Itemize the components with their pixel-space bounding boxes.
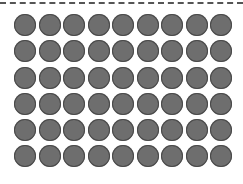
- circle-dot: [161, 14, 183, 36]
- circle-dot: [112, 119, 134, 141]
- circle-dot: [88, 93, 110, 115]
- circle-dot: [186, 145, 208, 167]
- circle-dot: [161, 40, 183, 62]
- circle-dot: [39, 40, 61, 62]
- circle-dot: [39, 119, 61, 141]
- circle-dot: [210, 14, 232, 36]
- circle-dot: [137, 40, 159, 62]
- circle-dot: [137, 145, 159, 167]
- circle-dot: [186, 14, 208, 36]
- circle-dot: [63, 145, 85, 167]
- circle-dot: [161, 119, 183, 141]
- circle-dot: [63, 93, 85, 115]
- circle-dot: [210, 145, 232, 167]
- circle-dot: [39, 67, 61, 89]
- circle-dot: [88, 40, 110, 62]
- circle-dot: [210, 67, 232, 89]
- circle-dot: [63, 67, 85, 89]
- circle-dot: [14, 145, 36, 167]
- circle-dot: [63, 14, 85, 36]
- dot-grid: [14, 14, 232, 167]
- circle-dot: [14, 93, 36, 115]
- circle-dot: [186, 119, 208, 141]
- circle-dot: [186, 67, 208, 89]
- circle-dot: [14, 67, 36, 89]
- circle-dot: [63, 119, 85, 141]
- circle-dot: [88, 14, 110, 36]
- circle-dot: [112, 14, 134, 36]
- circle-dot: [112, 67, 134, 89]
- circle-dot: [161, 145, 183, 167]
- circle-dot: [137, 67, 159, 89]
- circle-dot: [14, 119, 36, 141]
- circle-dot: [39, 14, 61, 36]
- circle-dot: [39, 145, 61, 167]
- circle-dot: [63, 40, 85, 62]
- circle-dot: [14, 40, 36, 62]
- dashed-divider: [0, 2, 243, 4]
- circle-dot: [88, 67, 110, 89]
- circle-dot: [186, 40, 208, 62]
- circle-dot: [112, 145, 134, 167]
- circle-dot: [210, 40, 232, 62]
- circle-dot: [210, 93, 232, 115]
- circle-dot: [137, 93, 159, 115]
- circle-dot: [137, 119, 159, 141]
- circle-dot: [112, 40, 134, 62]
- circle-dot: [161, 93, 183, 115]
- circle-dot: [88, 145, 110, 167]
- circle-dot: [14, 14, 36, 36]
- circle-dot: [186, 93, 208, 115]
- circle-dot: [161, 67, 183, 89]
- circle-dot: [137, 14, 159, 36]
- circle-dot: [112, 93, 134, 115]
- circle-dot: [88, 119, 110, 141]
- circle-dot: [210, 119, 232, 141]
- circle-dot: [39, 93, 61, 115]
